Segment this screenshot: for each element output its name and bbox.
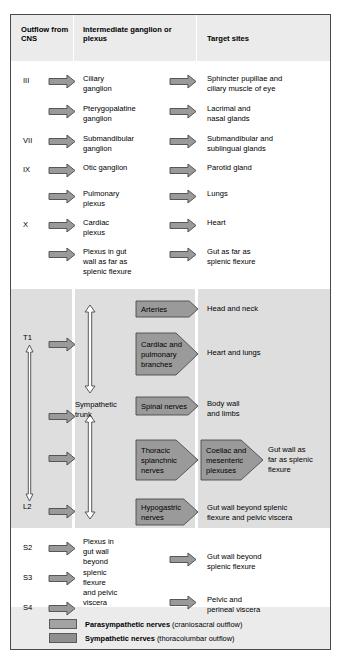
legend-swatch-1 bbox=[49, 633, 77, 643]
sympathetic-outflow-arrow-0 bbox=[49, 338, 75, 351]
sympathetic-range-arrow bbox=[26, 345, 33, 501]
column-header-outflow: Outflow from CNS bbox=[21, 25, 76, 44]
parasympathetic-arrow-target-3 bbox=[170, 164, 196, 177]
sacral-outflow-arrow-2 bbox=[49, 602, 75, 615]
sympathetic-nerve-arrow-4: Hypogastricnerves bbox=[136, 499, 198, 525]
sympathetic-target-label-0: Head and neck bbox=[207, 304, 327, 314]
target-label-4: Lungs bbox=[207, 189, 327, 199]
sacral-plexus-label: Plexus in gut wall beyond splenic flexur… bbox=[83, 537, 143, 608]
svg-text:Arteries: Arteries bbox=[141, 305, 167, 314]
sympathetic-nerve-arrow-3: Thoracicsplanchnicnerves bbox=[136, 440, 198, 480]
sympathetic-outflow-arrow-3 bbox=[49, 505, 75, 518]
sympathetic-trunk-label: Sympathetic trunk bbox=[75, 400, 135, 420]
parasympathetic-arrow-ganglion-3 bbox=[49, 164, 75, 177]
sympathetic-range-bottom-label: L2 bbox=[23, 502, 47, 512]
parasympathetic-arrow-ganglion-1 bbox=[49, 105, 75, 118]
target-label-2: Submandibular and sublingual glands bbox=[207, 134, 327, 154]
svg-text:mesenteric: mesenteric bbox=[206, 456, 243, 465]
sympathetic-outflow-arrow-2 bbox=[49, 452, 75, 465]
parasympathetic-arrow-ganglion-6 bbox=[49, 248, 75, 261]
parasympathetic-arrow-ganglion-5 bbox=[49, 219, 75, 232]
column-header-target: Target sites bbox=[207, 34, 317, 43]
sympathetic-target-label-4: Gut wall beyond splenic flexure and pelv… bbox=[207, 503, 331, 523]
legend-label-0: Parasympathetic nerves (craniosacral out… bbox=[85, 620, 242, 629]
parasympathetic-arrow-target-1 bbox=[170, 105, 196, 118]
target-label-3: Parotid gland bbox=[207, 163, 327, 173]
svg-text:Cardiac and: Cardiac and bbox=[141, 340, 182, 349]
target-label-6: Gut as far as splenic flexure bbox=[207, 247, 327, 267]
legend-swatch-0 bbox=[49, 619, 77, 629]
parasympathetic-arrow-ganglion-0 bbox=[49, 75, 75, 88]
sympathetic-nerve-arrow-2: Spinal nerves bbox=[136, 397, 198, 415]
sacral-target-label-0: Gut wall beyond splenic flexure bbox=[207, 552, 327, 572]
legend-label-1: Sympathetic nerves (thoracolumbar outflo… bbox=[85, 634, 235, 643]
sympathetic-trunk-arrow-lower bbox=[85, 415, 95, 519]
target-label-0: Sphincter pupillae and ciliary muscle of… bbox=[207, 74, 327, 94]
sympathetic-target-label-1: Heart and lungs bbox=[207, 348, 327, 358]
sympathetic-trunk-arrow-upper bbox=[85, 305, 95, 393]
parasympathetic-arrow-ganglion-2 bbox=[49, 135, 75, 148]
parasympathetic-arrow-target-5 bbox=[170, 219, 196, 232]
parasympathetic-arrow-target-0 bbox=[170, 75, 196, 88]
sacral-target-arrow-1 bbox=[170, 596, 196, 609]
svg-text:plexuses: plexuses bbox=[206, 466, 236, 475]
sympathetic-range-top-label: T1 bbox=[23, 333, 47, 343]
svg-text:nerves: nerves bbox=[141, 513, 164, 522]
header-column-separator-2 bbox=[196, 15, 197, 61]
sympathetic-target-label-2: Body wall and limbs bbox=[207, 399, 327, 419]
sacral-outflow-arrow-0 bbox=[49, 542, 75, 555]
target-label-1: Lacrimal and nasal glands bbox=[207, 104, 327, 124]
parasympathetic-arrow-target-2 bbox=[170, 135, 196, 148]
sympathetic-plexus-arrow-3: Coeliac andmesentericplexuses bbox=[201, 440, 263, 480]
column-header-intermediate: Intermediate ganglion or plexus bbox=[83, 25, 193, 44]
svg-text:Thoracic: Thoracic bbox=[141, 446, 170, 455]
svg-text:branches: branches bbox=[141, 360, 172, 369]
sacral-target-label-1: Pelvic and perineal viscera bbox=[207, 595, 327, 615]
svg-text:nerves: nerves bbox=[141, 466, 164, 475]
sympathetic-outflow-arrow-1 bbox=[49, 410, 75, 423]
diagram-frame: Outflow from CNS Intermediate ganglion o… bbox=[10, 14, 331, 650]
svg-text:Spinal nerves: Spinal nerves bbox=[141, 402, 187, 411]
parasympathetic-arrow-target-4 bbox=[170, 190, 196, 203]
parasympathetic-arrow-ganglion-4 bbox=[49, 190, 75, 203]
sympathetic-nerve-arrow-0: Arteries bbox=[136, 301, 198, 317]
parasympathetic-arrow-target-6 bbox=[170, 248, 196, 261]
sympathetic-nerve-arrow-1: Cardiac andpulmonarybranches bbox=[136, 333, 198, 375]
sympathetic-target-label-3: Gut wall as far as splenic flexure bbox=[268, 445, 331, 476]
svg-text:Coeliac and: Coeliac and bbox=[206, 446, 246, 455]
sacral-outflow-arrow-1 bbox=[49, 572, 75, 585]
svg-text:Hypogastric: Hypogastric bbox=[141, 503, 181, 512]
svg-text:pulmonary: pulmonary bbox=[141, 350, 177, 359]
sacral-target-arrow-0 bbox=[170, 553, 196, 566]
svg-text:splanchnic: splanchnic bbox=[141, 456, 177, 465]
target-label-5: Heart bbox=[207, 218, 327, 228]
